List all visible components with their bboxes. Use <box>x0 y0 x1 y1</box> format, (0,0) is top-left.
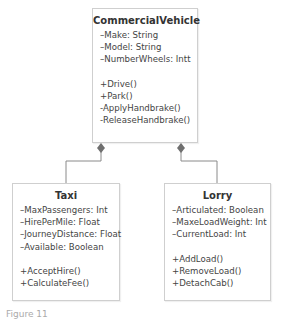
method: -ReleaseHandbrake() <box>100 114 197 126</box>
method: +AcceptHire() <box>20 265 119 277</box>
figure-caption: Figure 11 <box>6 309 48 319</box>
method: +RemoveLoad() <box>172 265 270 277</box>
attribute: –Model: String <box>100 41 197 53</box>
attribute: –Make: String <box>100 29 197 41</box>
class-name: Lorry <box>165 190 270 201</box>
class-taxi: Taxi –MaxPassengers: Int –HirePerMile: F… <box>12 183 120 301</box>
attribute: –JourneyDistance: Float <box>20 228 119 240</box>
attribute: –CurrentLoad: Int <box>172 228 270 240</box>
taxi-composition-line <box>66 152 101 183</box>
method: +Drive() <box>100 78 197 90</box>
class-name: Taxi <box>13 190 119 201</box>
method: +DetachCab() <box>172 277 270 289</box>
attribute: –Articulated: Boolean <box>172 204 270 216</box>
attribute: –MaxPassengers: Int <box>20 204 119 216</box>
class-name: CommercialVehicle <box>93 15 197 26</box>
attribute: –NumberWheels: Intt <box>100 53 197 65</box>
attribute: –MaxeLoadWeight: Int <box>172 216 270 228</box>
method: -ApplyHandbrake() <box>100 102 197 114</box>
class-lorry: Lorry –Articulated: Boolean –MaxeLoadWei… <box>164 183 271 301</box>
attribute: –HirePerMile: Float <box>20 216 119 228</box>
method: +Park() <box>100 90 197 102</box>
taxi-composition-diamond-icon <box>97 143 105 153</box>
method: +AddLoad() <box>172 253 270 265</box>
lorry-composition-line <box>181 152 217 183</box>
lorry-composition-diamond-icon <box>177 143 185 153</box>
method: +CalculateFee() <box>20 277 119 289</box>
attribute: –Available: Boolean <box>20 241 119 253</box>
class-commercial-vehicle: CommercialVehicle –Make: String –Model: … <box>92 8 198 143</box>
